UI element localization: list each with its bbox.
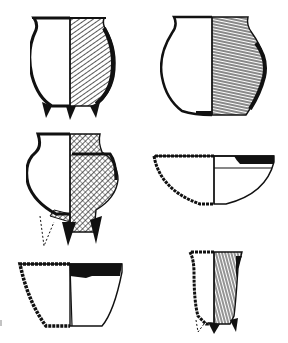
vessel-2-globular-jar (160, 15, 270, 119)
pottery-plate: Six ceramic vessels, each drawn with a l… (0, 0, 288, 343)
vessel-1-tripod-jar (30, 14, 120, 124)
vessel-6-tripod-cup (186, 250, 248, 336)
vessel-4-shallow-bowl (150, 154, 278, 210)
vessel-3-tripod-lugged-jar (26, 132, 122, 250)
figure-description: Six ceramic vessels, each drawn with a l… (0, 0, 1, 1)
scan-artifact (0, 320, 2, 326)
vessel-5-conical-bowl (16, 262, 128, 332)
